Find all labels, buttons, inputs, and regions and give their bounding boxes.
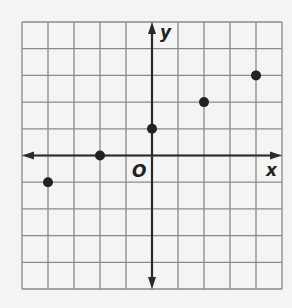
coordinate-plane: x y O	[0, 0, 292, 308]
arrow-right-icon	[270, 152, 282, 160]
data-point	[147, 124, 157, 134]
data-point	[43, 177, 53, 187]
arrow-up-icon	[148, 22, 156, 34]
axes	[22, 22, 282, 289]
origin-label: O	[132, 161, 146, 181]
arrow-down-icon	[148, 277, 156, 289]
arrow-left-icon	[22, 152, 34, 160]
x-axis-label: x	[265, 160, 278, 180]
data-point	[199, 97, 209, 107]
data-point	[95, 151, 105, 161]
data-point	[251, 70, 261, 80]
y-axis-label: y	[160, 22, 172, 42]
